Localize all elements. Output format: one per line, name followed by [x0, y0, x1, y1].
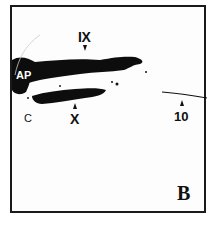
panel-label: B [177, 182, 190, 205]
label-ix: IX [78, 30, 90, 44]
label-c: C [24, 113, 32, 124]
label-ap: AP [16, 70, 31, 81]
nerve-10-line [162, 92, 207, 98]
label-x: X [70, 112, 79, 126]
ten-arrow-icon [180, 100, 184, 106]
label-10: 10 [174, 110, 188, 123]
ix-arrow-icon [83, 45, 87, 51]
upper-stain-band [12, 57, 142, 88]
x-arrow-icon [73, 103, 77, 109]
lower-stain-band [32, 88, 106, 104]
